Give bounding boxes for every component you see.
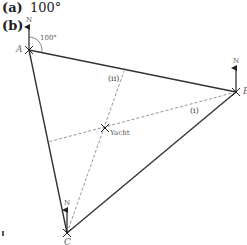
north-label-a: N bbox=[26, 17, 32, 24]
bearing-label-i: (i) bbox=[190, 107, 199, 115]
margin-mark bbox=[2, 231, 4, 236]
side-ab bbox=[29, 50, 236, 92]
yacht-label: Yacht bbox=[110, 130, 130, 137]
bearing-line-i bbox=[48, 92, 236, 142]
yacht-cross bbox=[101, 124, 109, 132]
point-b-label: B bbox=[243, 87, 247, 96]
side-ac bbox=[29, 50, 67, 233]
side-bc bbox=[67, 92, 236, 233]
angle-label: 100° bbox=[40, 35, 57, 42]
bearing-diagram bbox=[0, 0, 247, 245]
north-label-c: N bbox=[64, 200, 70, 207]
bearing-label-ii: (ii) bbox=[108, 75, 119, 83]
north-label-b: N bbox=[233, 58, 239, 65]
point-a-label: A bbox=[16, 45, 23, 54]
point-c-label: C bbox=[64, 238, 71, 245]
